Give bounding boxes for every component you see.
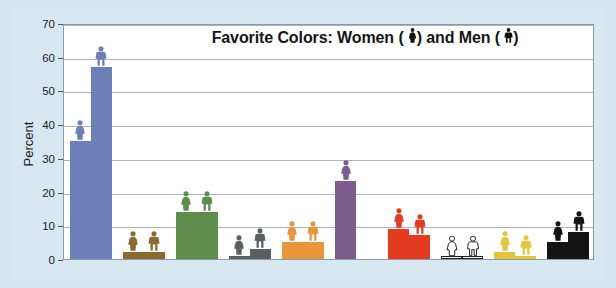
bar-group-black — [547, 25, 589, 259]
y-axis-tick-label: 60 — [11, 52, 55, 64]
male-figure-icon — [467, 236, 479, 256]
bar-green-men[interactable] — [197, 212, 218, 259]
male-figure-icon — [201, 191, 213, 211]
bar-group-blue — [70, 25, 112, 259]
female-figure-icon — [404, 29, 417, 46]
chart-title-part-2: ) and Men ( — [417, 29, 500, 46]
bar-blue-women[interactable] — [70, 141, 91, 259]
chart-title-part-3: ) — [513, 29, 518, 46]
bar-group-yellow — [494, 25, 536, 259]
y-axis-tick-label: 10 — [11, 220, 55, 232]
female-figure-icon — [446, 236, 458, 256]
bar-group-red — [388, 25, 430, 259]
bar-group-purple — [335, 25, 377, 259]
female-figure-icon — [127, 231, 139, 251]
female-figure-icon — [286, 221, 298, 241]
y-axis-tick-label: 40 — [11, 119, 55, 131]
y-axis-tick-label: 30 — [11, 153, 55, 165]
male-figure-icon — [500, 29, 513, 46]
bar-group-orange — [282, 25, 324, 259]
y-axis-tick-mark — [58, 260, 63, 261]
bar-purple-women[interactable] — [335, 181, 356, 259]
bar-group-green — [176, 25, 218, 259]
bar-gray-women[interactable] — [229, 256, 250, 259]
male-figure-icon — [307, 221, 319, 241]
bar-orange-men[interactable] — [303, 242, 324, 259]
male-figure-icon — [95, 46, 107, 66]
y-axis-tick-label: 0 — [11, 254, 55, 266]
female-figure-icon — [180, 191, 192, 211]
bar-group-white — [441, 25, 483, 259]
male-figure-icon — [254, 228, 266, 248]
female-figure-icon — [499, 231, 511, 251]
y-axis-tick-label: 20 — [11, 187, 55, 199]
male-figure-icon — [520, 235, 532, 255]
bar-red-women[interactable] — [388, 229, 409, 259]
bar-brown-women[interactable] — [123, 252, 144, 259]
female-figure-icon — [233, 235, 245, 255]
bar-group-brown — [123, 25, 165, 259]
bar-orange-women[interactable] — [282, 242, 303, 259]
y-axis-tick-label: 50 — [11, 85, 55, 97]
female-figure-icon — [340, 160, 352, 180]
bar-red-men[interactable] — [409, 235, 430, 259]
chart-title: Favorite Colors: Women ( ) and Men ( ) — [150, 28, 580, 47]
bar-black-women[interactable] — [547, 242, 568, 259]
bar-yellow-women[interactable] — [494, 252, 515, 259]
bar-black-men[interactable] — [568, 232, 589, 259]
chart-screenshot: Percent 010203040506070 Favorite Colors:… — [0, 0, 616, 288]
bar-brown-men[interactable] — [144, 252, 165, 259]
bar-gray-men[interactable] — [250, 249, 271, 259]
plot-frame — [63, 24, 594, 260]
bar-group-gray — [229, 25, 271, 259]
bar-series-container — [64, 25, 593, 259]
bar-yellow-men[interactable] — [515, 256, 536, 259]
male-figure-icon — [414, 214, 426, 234]
bar-blue-men[interactable] — [91, 67, 112, 259]
bar-green-women[interactable] — [176, 212, 197, 259]
chart-title-part-1: Favorite Colors: Women ( — [212, 29, 404, 46]
female-figure-icon — [74, 120, 86, 140]
male-figure-icon — [148, 231, 160, 251]
female-figure-icon — [552, 221, 564, 241]
female-figure-icon — [393, 208, 405, 228]
y-axis-tick-label: 70 — [11, 18, 55, 30]
bar-white-women[interactable] — [441, 256, 462, 259]
bar-white-men[interactable] — [462, 256, 483, 259]
male-figure-icon — [573, 211, 585, 231]
